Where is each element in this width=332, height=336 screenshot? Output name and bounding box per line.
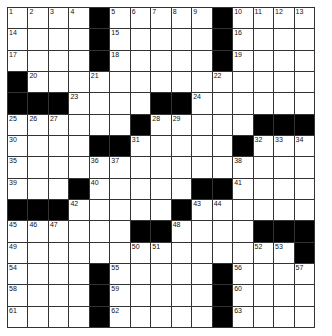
crossword-cell[interactable] xyxy=(192,264,211,284)
crossword-cell[interactable] xyxy=(28,285,47,305)
crossword-cell[interactable] xyxy=(69,285,88,305)
crossword-cell[interactable] xyxy=(233,115,252,135)
crossword-cell[interactable] xyxy=(213,157,232,177)
crossword-cell[interactable]: 8 xyxy=(172,8,191,28)
crossword-cell[interactable] xyxy=(110,243,129,263)
crossword-cell[interactable]: 62 xyxy=(110,307,129,327)
crossword-cell[interactable]: 16 xyxy=(233,29,252,49)
crossword-cell[interactable]: 56 xyxy=(233,264,252,284)
crossword-cell[interactable]: 28 xyxy=(151,115,170,135)
crossword-cell[interactable]: 18 xyxy=(110,51,129,71)
crossword-cell[interactable]: 53 xyxy=(274,243,293,263)
crossword-cell[interactable] xyxy=(28,157,47,177)
crossword-cell[interactable]: 20 xyxy=(28,72,47,92)
crossword-cell[interactable]: 22 xyxy=(213,72,232,92)
crossword-cell[interactable] xyxy=(274,93,293,113)
crossword-cell[interactable] xyxy=(131,93,150,113)
crossword-cell[interactable]: 21 xyxy=(90,72,109,92)
crossword-cell[interactable] xyxy=(151,200,170,220)
crossword-cell[interactable] xyxy=(151,136,170,156)
crossword-cell[interactable]: 13 xyxy=(295,8,314,28)
crossword-cell[interactable]: 59 xyxy=(110,285,129,305)
crossword-cell[interactable] xyxy=(254,285,273,305)
crossword-cell[interactable] xyxy=(69,307,88,327)
crossword-cell[interactable] xyxy=(274,179,293,199)
crossword-cell[interactable]: 47 xyxy=(49,221,68,241)
crossword-cell[interactable] xyxy=(295,157,314,177)
crossword-cell[interactable] xyxy=(192,51,211,71)
crossword-cell[interactable]: 1 xyxy=(8,8,27,28)
crossword-cell[interactable] xyxy=(233,221,252,241)
crossword-cell[interactable] xyxy=(49,72,68,92)
crossword-cell[interactable] xyxy=(110,115,129,135)
crossword-cell[interactable]: 43 xyxy=(192,200,211,220)
crossword-cell[interactable]: 30 xyxy=(8,136,27,156)
crossword-cell[interactable] xyxy=(233,243,252,263)
crossword-cell[interactable] xyxy=(172,243,191,263)
crossword-cell[interactable] xyxy=(131,200,150,220)
crossword-cell[interactable] xyxy=(28,51,47,71)
crossword-cell[interactable] xyxy=(69,29,88,49)
crossword-cell[interactable]: 60 xyxy=(233,285,252,305)
crossword-cell[interactable] xyxy=(274,307,293,327)
crossword-cell[interactable] xyxy=(274,51,293,71)
crossword-cell[interactable] xyxy=(295,29,314,49)
crossword-cell[interactable]: 63 xyxy=(233,307,252,327)
crossword-cell[interactable] xyxy=(295,93,314,113)
crossword-cell[interactable] xyxy=(254,93,273,113)
crossword-cell[interactable]: 32 xyxy=(254,136,273,156)
crossword-cell[interactable]: 17 xyxy=(8,51,27,71)
crossword-cell[interactable] xyxy=(274,72,293,92)
crossword-cell[interactable] xyxy=(192,72,211,92)
crossword-cell[interactable] xyxy=(69,221,88,241)
crossword-cell[interactable] xyxy=(28,307,47,327)
crossword-cell[interactable] xyxy=(254,29,273,49)
crossword-cell[interactable]: 55 xyxy=(110,264,129,284)
crossword-cell[interactable]: 42 xyxy=(69,200,88,220)
crossword-cell[interactable]: 54 xyxy=(8,264,27,284)
crossword-cell[interactable]: 14 xyxy=(8,29,27,49)
crossword-cell[interactable] xyxy=(49,243,68,263)
crossword-cell[interactable]: 39 xyxy=(8,179,27,199)
crossword-cell[interactable] xyxy=(192,115,211,135)
crossword-cell[interactable] xyxy=(28,264,47,284)
crossword-cell[interactable] xyxy=(233,93,252,113)
crossword-cell[interactable] xyxy=(192,136,211,156)
crossword-cell[interactable] xyxy=(192,285,211,305)
crossword-cell[interactable] xyxy=(274,200,293,220)
crossword-cell[interactable] xyxy=(151,72,170,92)
crossword-cell[interactable] xyxy=(172,157,191,177)
crossword-cell[interactable]: 15 xyxy=(110,29,129,49)
crossword-cell[interactable] xyxy=(131,51,150,71)
crossword-cell[interactable]: 46 xyxy=(28,221,47,241)
crossword-cell[interactable] xyxy=(172,29,191,49)
crossword-cell[interactable]: 37 xyxy=(110,157,129,177)
crossword-cell[interactable] xyxy=(49,285,68,305)
crossword-cell[interactable] xyxy=(49,136,68,156)
crossword-cell[interactable] xyxy=(90,115,109,135)
crossword-cell[interactable] xyxy=(274,157,293,177)
crossword-cell[interactable] xyxy=(192,221,211,241)
crossword-cell[interactable] xyxy=(254,307,273,327)
crossword-cell[interactable]: 23 xyxy=(69,93,88,113)
crossword-cell[interactable] xyxy=(172,136,191,156)
crossword-cell[interactable] xyxy=(233,72,252,92)
crossword-cell[interactable]: 48 xyxy=(172,221,191,241)
crossword-cell[interactable] xyxy=(172,72,191,92)
crossword-cell[interactable] xyxy=(28,243,47,263)
crossword-cell[interactable] xyxy=(49,264,68,284)
crossword-cell[interactable]: 12 xyxy=(274,8,293,28)
crossword-cell[interactable] xyxy=(172,285,191,305)
crossword-cell[interactable] xyxy=(131,285,150,305)
crossword-cell[interactable] xyxy=(172,51,191,71)
crossword-cell[interactable] xyxy=(172,307,191,327)
crossword-cell[interactable]: 49 xyxy=(8,243,27,263)
crossword-cell[interactable]: 29 xyxy=(172,115,191,135)
crossword-cell[interactable] xyxy=(192,307,211,327)
crossword-cell[interactable]: 5 xyxy=(110,8,129,28)
crossword-cell[interactable] xyxy=(28,136,47,156)
crossword-cell[interactable] xyxy=(295,179,314,199)
crossword-cell[interactable] xyxy=(69,136,88,156)
crossword-cell[interactable] xyxy=(254,179,273,199)
crossword-cell[interactable] xyxy=(295,200,314,220)
